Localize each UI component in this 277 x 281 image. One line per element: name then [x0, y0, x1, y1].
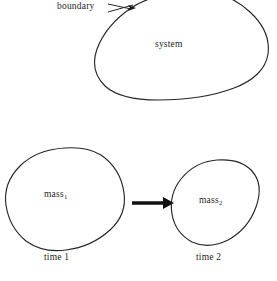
mass1-label-base: mass — [44, 189, 64, 199]
time2-label: time 2 — [196, 253, 221, 263]
boundary-label: boundary — [57, 2, 94, 12]
figure-closed-system-diagram: boundary system mass1 mass2 time 1 time … — [0, 0, 277, 281]
mass1-label-subscript: 1 — [64, 193, 68, 200]
time1-label: time 1 — [44, 253, 69, 263]
mass2-label-subscript: 2 — [219, 199, 223, 206]
diagram-canvas — [0, 0, 277, 281]
mass1-label: mass1 — [44, 190, 67, 200]
system-boundary-shape — [95, 0, 269, 100]
mass2-label-base: mass — [199, 195, 219, 205]
mass2-label: mass2 — [199, 196, 222, 206]
system-label: system — [155, 40, 183, 50]
